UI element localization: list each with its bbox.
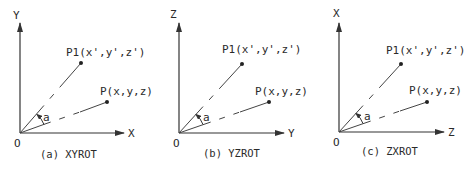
- line-op1-dashed: [359, 87, 380, 110]
- point-p-label: P(x,y,z): [100, 85, 153, 98]
- point-p-label: P(x,y,z): [409, 84, 462, 97]
- point-p: [267, 100, 271, 104]
- origin-label: O: [14, 137, 21, 150]
- point-p1: [399, 62, 403, 66]
- angle-label: a: [43, 111, 50, 124]
- line-op-solid-far: [80, 102, 107, 112]
- origin-label: O: [173, 137, 180, 150]
- vertical-axis-label: X: [333, 7, 340, 20]
- panel-caption: (b) YZROT: [203, 147, 261, 159]
- line-op-dashed: [205, 112, 240, 124]
- panel-a: Y X O a P1(x',y',z') P(x,y,z) (a) XYROT: [13, 9, 153, 160]
- point-p1-label: P1(x',y',z'): [386, 44, 465, 57]
- point-p: [105, 100, 109, 104]
- line-op-solid-far: [400, 102, 427, 111]
- horizontal-axis-label: Z: [448, 126, 455, 139]
- line-op1-dashed: [199, 88, 220, 111]
- panel-caption: (a) XYROT: [40, 148, 98, 160]
- point-p1: [79, 61, 83, 65]
- vertical-axis-label: Y: [13, 9, 20, 22]
- horizontal-axis-label: X: [128, 127, 135, 140]
- point-p1: [240, 62, 244, 66]
- panel-c: X Z O a P1(x',y',z') P(x,y,z) (c) ZXROT: [333, 7, 465, 157]
- point-p1-label: P1(x',y',z'): [66, 46, 145, 59]
- origin-label: O: [333, 136, 340, 149]
- vertical-axis-label: Z: [170, 8, 177, 21]
- point-p: [425, 100, 429, 104]
- angle-label: a: [364, 110, 371, 123]
- panel-caption: (c) ZXROT: [361, 145, 419, 157]
- angle-arc-icon: [196, 115, 203, 125]
- point-p1-label: P1(x',y',z'): [222, 43, 301, 56]
- angle-label: a: [203, 111, 210, 124]
- rotation-diagrams: Y X O a P1(x',y',z') P(x,y,z) (a) XYROT …: [0, 0, 465, 170]
- point-p-label: P(x,y,z): [255, 85, 308, 98]
- line-op1-dashed: [40, 87, 60, 110]
- line-op1-solid-far: [60, 63, 81, 87]
- line-op1-solid-far: [380, 64, 401, 87]
- horizontal-axis-label: Y: [288, 127, 295, 140]
- panel-b: Z Y O a P1(x',y',z') P(x,y,z) (b) YZROT: [170, 8, 308, 159]
- line-op-dashed: [45, 112, 80, 124]
- line-op-solid-far: [240, 102, 269, 112]
- angle-arc-icon: [356, 114, 363, 124]
- line-op1-solid-far: [220, 64, 242, 88]
